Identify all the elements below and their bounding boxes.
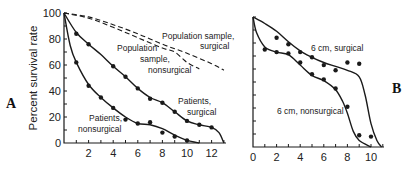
data-point — [136, 86, 140, 90]
data-point — [99, 95, 103, 99]
data-point — [173, 134, 177, 138]
data-point — [86, 42, 90, 46]
data-point — [369, 134, 373, 138]
y-tick-labels: 020406080100 — [43, 7, 67, 149]
data-point — [345, 105, 349, 109]
data-point — [263, 47, 267, 51]
data-point — [274, 36, 278, 40]
panel-a: A Percent survival rate 020406080100 246… — [6, 7, 234, 159]
annotation-pat-surgical-2: surgical — [187, 107, 216, 117]
data-point — [160, 130, 164, 134]
annotation-pop-surgical-1: Population sample, — [162, 31, 234, 41]
panel-b-label: B — [392, 81, 401, 96]
data-point — [123, 75, 127, 79]
x-tick-label: 8 — [159, 147, 165, 159]
x-tick-label: 2 — [274, 151, 280, 163]
data-point — [274, 50, 278, 54]
panel-a-label: A — [6, 96, 17, 111]
x-tick-label: 6 — [135, 147, 141, 159]
data-point — [86, 84, 90, 88]
y-axis-label: Percent survival rate — [27, 26, 39, 131]
data-point — [310, 55, 314, 59]
data-point — [185, 138, 189, 142]
annotation-pop-nonsurg-1: Population — [117, 43, 157, 53]
panel-b-series — [253, 17, 382, 147]
data-point — [286, 42, 290, 46]
data-point — [123, 117, 127, 121]
data-point — [298, 60, 302, 64]
x-tick-label: 0 — [250, 151, 256, 163]
annotation-b-surgical: 6 cm, surgical — [311, 43, 364, 53]
data-point — [322, 77, 326, 81]
data-point — [322, 63, 326, 67]
x-tick-label: 4 — [297, 151, 303, 163]
y-tick-label: 40 — [49, 85, 61, 97]
data-point — [148, 120, 152, 124]
annotation-pop-surgical-2: surgical — [200, 41, 229, 51]
annotation-pat-nonsurg-1: Patients, — [89, 113, 122, 123]
data-point — [111, 64, 115, 68]
data-point — [357, 133, 361, 137]
panel-b: 0246810 6 cm, surgical 6 cm, nonsurgical… — [250, 17, 401, 163]
x-tick-label: 4 — [110, 147, 116, 159]
data-point — [333, 68, 337, 72]
y-tick-label: 80 — [49, 33, 61, 45]
data-point — [209, 125, 213, 129]
x-tick-label: 8 — [344, 151, 350, 163]
series-line-6-cm-nonsurgical — [253, 17, 371, 147]
data-point — [185, 119, 189, 123]
data-point — [74, 60, 78, 64]
annotation-pat-nonsurg-2: nonsurgical — [78, 124, 122, 134]
annotation-pat-surgical-1: Patients, — [178, 96, 211, 106]
data-point — [160, 101, 164, 105]
y-tick-label: 0 — [55, 137, 61, 149]
data-point — [333, 86, 337, 90]
series-line-6-cm-surgical — [253, 17, 382, 147]
data-point — [298, 50, 302, 54]
survival-chart: A Percent survival rate 020406080100 246… — [0, 0, 419, 178]
y-tick-label: 20 — [49, 111, 61, 123]
annotation-b-nonsurgical: 6 cm, nonsurgical — [277, 106, 344, 116]
panel-b-axes — [253, 17, 384, 147]
x-tick-label: 10 — [181, 147, 193, 159]
x-tick-label: 12 — [205, 147, 217, 159]
annotation-pop-nonsurg-3: nonsurgical — [148, 65, 192, 75]
data-point — [74, 32, 78, 36]
data-point — [197, 123, 201, 127]
data-point — [173, 110, 177, 114]
data-point — [345, 60, 349, 64]
data-point — [111, 106, 115, 110]
x-tick-label: 6 — [321, 151, 327, 163]
data-point — [136, 121, 140, 125]
x-tick-label: 10 — [365, 151, 377, 163]
data-point — [357, 62, 361, 66]
data-point — [148, 97, 152, 101]
y-tick-label: 60 — [49, 59, 61, 71]
y-tick-label: 100 — [43, 7, 61, 19]
x-tick-label: 2 — [86, 147, 92, 159]
data-point — [310, 72, 314, 76]
annotation-pop-nonsurg-2: sample, — [140, 54, 170, 64]
data-point — [286, 51, 290, 55]
